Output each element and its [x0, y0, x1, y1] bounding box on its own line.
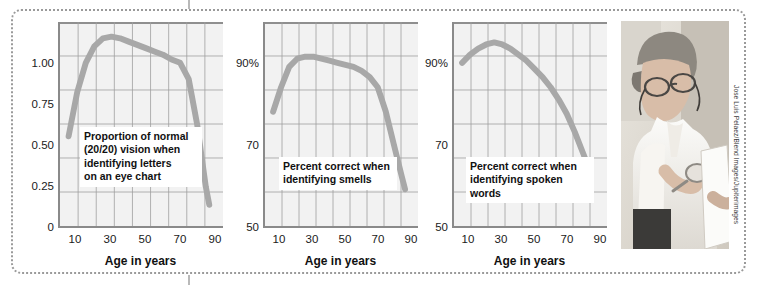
ytick-vision-4: 1.00 — [20, 58, 54, 70]
plot-area-vision — [58, 22, 223, 228]
ytick-vision-0: 0 — [20, 222, 54, 234]
photo-older-woman-reading — [621, 21, 729, 249]
chart-panel-hearing: 90% 70 50 10 30 50 70 90 Percent correct… — [430, 0, 615, 285]
ytick-vision-1: 0.25 — [20, 181, 54, 193]
caption-smell: Percent correct when identifying smells — [279, 157, 397, 190]
chart-panel-vision: 1.00 0.75 0.50 0.25 0 10 30 50 70 90 Pro… — [20, 0, 235, 285]
caption-vision: Proportion of normal (20/20) vision when… — [80, 127, 202, 187]
caption-hearing: Percent correct when identifying spoken … — [466, 157, 594, 203]
xtick-smell-4: 90 — [399, 234, 423, 246]
ytick-hearing-1: 70 — [408, 140, 448, 152]
xtick-smell-2: 50 — [333, 234, 357, 246]
ytick-smell-2: 90% — [221, 58, 259, 70]
xtick-smell-3: 70 — [366, 234, 390, 246]
grid-and-curve-smell — [265, 22, 418, 226]
xtick-smell-0: 10 — [267, 234, 291, 246]
grid-and-curve-vision — [60, 22, 223, 226]
ytick-hearing-2: 90% — [408, 58, 448, 70]
xtick-vision-0: 10 — [63, 234, 87, 246]
ytick-vision-2: 0.50 — [20, 140, 54, 152]
ytick-vision-3: 0.75 — [20, 99, 54, 111]
xtick-hearing-2: 50 — [522, 234, 546, 246]
ytick-hearing-0: 50 — [408, 222, 448, 234]
ytick-smell-0: 50 — [221, 222, 259, 234]
xtick-smell-1: 30 — [300, 234, 324, 246]
xtick-vision-1: 30 — [98, 234, 122, 246]
xtick-hearing-1: 30 — [489, 234, 513, 246]
xtick-vision-4: 90 — [203, 234, 227, 246]
xaxis-title-vision: Age in years — [58, 254, 223, 268]
xtick-hearing-0: 10 — [456, 234, 480, 246]
photo-credit: Jose Luis Pelaez/Blend Images/Jupiterima… — [729, 21, 743, 249]
xaxis-title-hearing: Age in years — [452, 254, 607, 268]
xtick-vision-3: 70 — [168, 234, 192, 246]
photo-credit-text: Jose Luis Pelaez/Blend Images/Jupiterima… — [733, 85, 740, 224]
xaxis-title-smell: Age in years — [263, 254, 418, 268]
photo-illustration — [621, 21, 729, 249]
xtick-vision-2: 50 — [133, 234, 157, 246]
three-panel-aging-senses-figure: 1.00 0.75 0.50 0.25 0 10 30 50 70 90 Pro… — [0, 0, 759, 285]
plot-area-smell — [263, 22, 418, 228]
xtick-hearing-4: 90 — [588, 234, 612, 246]
ytick-smell-1: 70 — [221, 140, 259, 152]
xtick-hearing-3: 70 — [555, 234, 579, 246]
